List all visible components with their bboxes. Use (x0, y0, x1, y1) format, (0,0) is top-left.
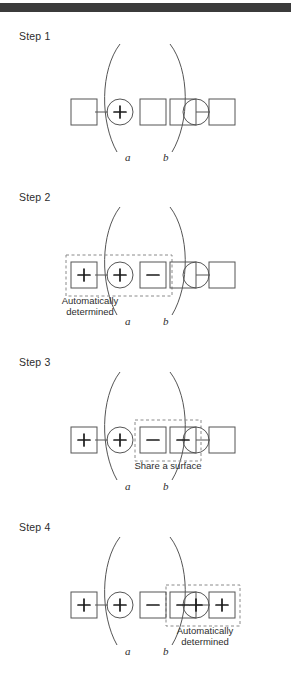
arc-label-a-text: a (125, 646, 131, 657)
arc-label-b-text: b (163, 152, 169, 163)
annotation-line-1: Share a surface (118, 460, 218, 471)
figure-root: Step 1 (0, 0, 291, 674)
step-2-arc-label-a: a (125, 316, 131, 327)
step-1-arc-label-a: a (125, 152, 131, 163)
arc-a (105, 537, 120, 645)
step-4-canvas (0, 515, 291, 674)
step-3-arc-label-a: a (125, 481, 131, 492)
step-3-group: Step 3 (0, 350, 291, 505)
annotation-line-2: determined (48, 306, 132, 317)
step-4-group: Step 4 (0, 515, 291, 674)
step-3-canvas (0, 350, 291, 505)
step-4-arc-label-a: a (125, 646, 131, 657)
step-2-annotation: Automatically determined (48, 295, 132, 317)
arc-label-a-text: a (125, 316, 131, 327)
step-1-canvas (0, 22, 291, 172)
arc-label-b-text: b (163, 646, 169, 657)
node-square-1 (71, 99, 97, 125)
node-square-6 (209, 427, 235, 453)
arc-b (170, 44, 185, 152)
annotation-line-1: Automatically (163, 625, 247, 636)
annotation-line-1: Automatically (48, 295, 132, 306)
step-2-group: Step 2 (0, 185, 291, 340)
dashed-box-share-a-surface (135, 420, 201, 461)
step-3-annotation: Share a surface (118, 460, 218, 471)
step-3-arc-label-b: b (163, 481, 169, 492)
arc-label-a-text: a (125, 481, 131, 492)
header-bar (0, 3, 291, 12)
arc-a (105, 44, 120, 152)
node-square-3 (140, 99, 166, 125)
arc-label-b-text: b (163, 316, 169, 327)
arc-label-b-text: b (163, 481, 169, 492)
step-2-arc-label-b: b (163, 316, 169, 327)
step-1-group: Step 1 (0, 22, 291, 172)
step-2-canvas (0, 185, 291, 340)
step-4-annotation: Automatically determined (163, 625, 247, 647)
annotation-line-2: determined (163, 636, 247, 647)
node-square-6 (209, 262, 235, 288)
step-4-arc-label-b: b (163, 646, 169, 657)
step-1-arc-label-b: b (163, 152, 169, 163)
arc-label-a-text: a (125, 152, 131, 163)
node-square-6 (209, 99, 235, 125)
